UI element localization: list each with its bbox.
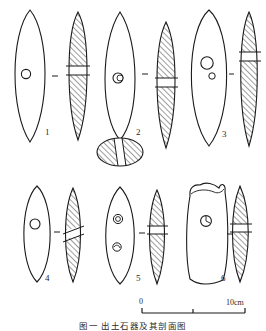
artifact-4-perforation: [30, 219, 40, 229]
artifact-6-perforation: [201, 216, 212, 227]
artifact-6-section-hatch: [228, 182, 264, 286]
artifact-2-perforation-inner: [117, 75, 123, 81]
artifact-3-group: [191, 8, 266, 153]
artifact-3-perforation-small: [209, 73, 215, 79]
artifact-label-2: 2: [136, 128, 141, 137]
artifact-5-perforation-lower: [113, 243, 121, 251]
artifact-label-6: 6: [221, 274, 226, 283]
artifact-label-4: 4: [45, 274, 50, 283]
artifact-5-perforation-upper: [113, 214, 122, 223]
artifact-1-perforation: [21, 69, 30, 78]
artifact-2-endview-hatch: [96, 136, 146, 170]
artifact-5-plan-outline: [106, 187, 135, 284]
artifact-1-section-band: [60, 66, 100, 75]
artifact-5-section-hatch: [145, 186, 180, 290]
artifact-3-section-hatch: [234, 8, 266, 153]
artifact-6-group: [187, 182, 264, 286]
figure-caption: 图一 出土石器及其剖面图: [0, 319, 266, 331]
artifact-2-section-hatch: [148, 18, 188, 158]
artifact-3-section-band: [234, 52, 266, 61]
scale-bar-start-label: 0: [139, 298, 143, 306]
artifact-6-section-band: [228, 224, 264, 232]
artifact-label-1: 1: [45, 128, 50, 137]
scale-bar-graphic: [142, 308, 245, 313]
artifact-label-3: 3: [222, 130, 227, 139]
artifact-2-group: [96, 12, 188, 170]
artifact-1-group: [15, 8, 100, 148]
artifact-4-group: [24, 184, 95, 288]
artifact-label-5: 5: [136, 274, 141, 283]
artifact-6-plan-outline: [187, 183, 228, 284]
artifact-1-section-hatch: [60, 8, 100, 148]
artifact-3-perforation-large: [201, 57, 213, 69]
artifact-2-section-band: [148, 78, 188, 87]
artifact-5-section-band: [145, 226, 180, 234]
artifact-4-plan-outline: [24, 186, 50, 282]
artifact-5-group: [106, 186, 180, 290]
scale-bar-end-label: 10cm: [226, 299, 244, 307]
